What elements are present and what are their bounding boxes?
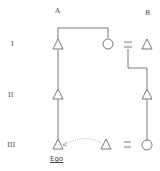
kinship-diagram xyxy=(0,0,160,171)
column-label-B: B xyxy=(145,9,150,17)
descent-line-B-I-II xyxy=(128,49,147,89)
sibling-line-gen-I xyxy=(58,28,108,39)
column-label-A: A xyxy=(55,7,60,15)
male-triangle-icon xyxy=(142,89,152,99)
female-circle-icon xyxy=(103,39,113,49)
generation-label-III: III xyxy=(7,141,15,149)
male-triangle-icon xyxy=(53,39,63,49)
male-triangle-icon xyxy=(53,89,63,99)
male-triangle-icon xyxy=(142,39,152,49)
ego-triangle-icon xyxy=(53,139,63,149)
female-circle-icon xyxy=(142,140,152,150)
male-triangle-icon xyxy=(101,139,111,149)
dashed-arrow xyxy=(64,138,101,145)
generation-label-I: I xyxy=(11,40,14,48)
generation-label-II: II xyxy=(8,91,14,99)
ego-label: Ego xyxy=(50,155,63,163)
